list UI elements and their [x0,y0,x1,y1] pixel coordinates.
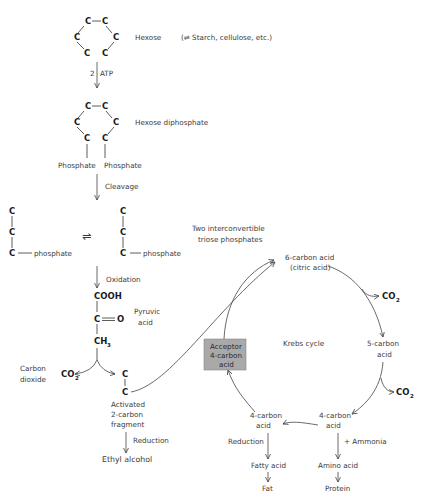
atom-c: C [102,48,108,58]
four-carbon-left-line2: acid [256,421,271,430]
fatty-acid-label: Fatty acid [251,461,286,470]
hexose-label: Hexose [135,33,162,42]
reduction-right-label: Reduction [228,437,264,446]
four-carbon-left-line1: 4-carbon [250,411,282,420]
atom-c: C [113,32,119,42]
acceptor-to-citric-arrow [224,260,274,339]
six-carbon-label-line2: (citric acid) [290,263,331,272]
hexose-diphosphate-label: Hexose diphosphate [135,118,209,127]
carbon-dioxide-label-line1: Carbon [20,364,46,373]
four-carbon-right-line1: 4-carbon [319,411,351,420]
atom-c: C [102,101,108,111]
phosphate-left: Phosphate [58,161,96,170]
hexose-ring: C C C C C C [74,16,119,58]
hexose-diphosphate-ring: C C C C C C [74,101,119,158]
four-to-acceptor-arrow [228,370,255,412]
atom-c: C [74,32,80,42]
fragment-label-line3: fragment [111,420,144,429]
five-carbon-label-line2: acid [377,350,392,359]
atom-c: C [9,206,15,216]
co2-left-subscript: 2 [75,375,79,381]
metabolism-diagram: C C C C C C Hexose (⇌ Starch, cellulose,… [0,0,423,498]
phosphate-right: Phosphate [104,161,142,170]
atom-c: C [85,101,91,111]
pyruvic-label-line1: Pyruvic [134,307,160,316]
four-right-to-left-arrow [283,422,318,425]
amino-acid-label: Amino acid [318,461,358,470]
protein-label: Protein [325,484,350,493]
co2-first: CO [382,291,395,301]
co2-release-arrow-1 [362,289,379,296]
atom-c: C [9,227,15,237]
ammonia-label: + Ammonia [344,437,387,446]
carbonyl-c: C [94,314,100,324]
krebs-cycle-label: Krebs cycle [283,339,325,348]
atp-label: ATP [100,69,114,78]
fragment-to-citric-arrow [131,262,275,392]
triose-label-line1: Two interconvertible [191,224,265,233]
atom-c: C [102,133,108,143]
four-carbon-right-line2: acid [326,421,341,430]
triose-left-phosphate: phosphate [34,249,73,258]
co2-left: CO [61,369,74,379]
cooh-group: COOH [94,291,122,301]
fragment-label-line2: 2-carbon [111,410,143,419]
atom-c: C [113,117,119,127]
carbon-dioxide-label-line2: dioxide [20,375,47,384]
carbonyl-o: O [117,314,124,324]
five-to-four-carbon-arrow [352,362,383,414]
fat-label: Fat [262,484,273,493]
triose-right-phosphate: phosphate [143,249,182,258]
atom-c: C [84,48,90,58]
co2-release-arrow-2 [381,378,394,392]
atom-c: C [74,117,80,127]
atom-c: C [120,248,126,258]
co2-second: CO [396,387,409,397]
pyruvic-acid-structure: COOH C O CH 3 [94,291,124,348]
acceptor-line1: Acceptor [210,342,242,351]
co2-second-subscript: 2 [410,393,414,399]
methyl-subscript: 3 [107,342,111,348]
atom-c: C [120,227,126,237]
ethyl-alcohol-label: Ethyl alcohol [102,455,152,464]
polysaccharide-note: (⇌ Starch, cellulose, etc.) [181,33,272,42]
methyl-ch: CH [94,336,107,346]
pyruvic-label-line2: acid [138,318,153,327]
triose-right: C C C [120,206,141,258]
fragment-c1: C [122,369,128,379]
oxidation-label: Oxidation [106,275,141,284]
atom-c: C [85,16,91,26]
fragment-arrow [97,360,115,374]
atom-c: C [84,133,90,143]
reduction-left-label: Reduction [133,436,169,445]
atom-c: C [102,16,108,26]
fragment-c2: C [122,387,128,397]
co2-first-subscript: 2 [396,297,400,303]
acceptor-line2: 4-carbon [210,351,242,360]
atp-coefficient: 2 [90,69,95,78]
five-carbon-label-line1: 5-carbon [367,339,399,348]
triose-left: C C C [9,206,32,258]
equilibrium-icon: ⇌ [82,230,91,243]
triose-label-line2: triose phosphates [198,235,263,244]
atom-c: C [120,206,126,216]
acceptor-line3: acid [219,360,234,369]
fragment-label-line1: Activated [111,400,145,409]
co2-release-arrow [75,360,97,374]
six-carbon-label-line1: 6-carbon acid [285,253,334,262]
citric-to-five-carbon-arrow [328,266,383,337]
cleavage-label: Cleavage [105,182,139,191]
atom-c: C [9,248,15,258]
